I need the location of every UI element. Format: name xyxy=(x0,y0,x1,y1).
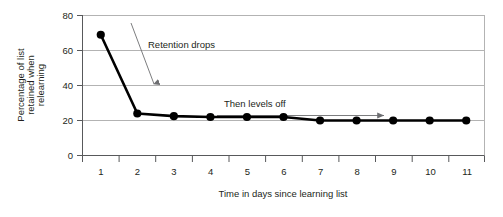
x-axis-tick-labels: 1 2 3 4 5 6 7 8 9 10 11 xyxy=(98,166,472,177)
data-point-day-10 xyxy=(426,116,434,124)
data-point-day-1 xyxy=(97,31,105,39)
data-point-day-2 xyxy=(133,109,141,117)
x-tick-label-4: 4 xyxy=(208,166,213,177)
annotation-retention-drops: Retention drops xyxy=(131,23,215,84)
x-tick-label-2: 2 xyxy=(135,166,140,177)
x-tick-label-9: 9 xyxy=(391,166,396,177)
y-axis-title: Percentage of list retained when relearn… xyxy=(15,48,46,122)
y-tick-label-60: 60 xyxy=(62,45,73,56)
annotation-then-levels-off: Then levels off xyxy=(217,98,384,116)
then-levels-off-label: Then levels off xyxy=(224,98,286,109)
x-tick-label-11: 11 xyxy=(462,166,472,177)
x-tick-label-7: 7 xyxy=(318,166,323,177)
y-tick-label-40: 40 xyxy=(62,80,73,91)
x-tick-label-10: 10 xyxy=(425,166,436,177)
data-point-day-11 xyxy=(462,116,470,124)
y-axis-ticks xyxy=(77,16,82,156)
data-point-day-9 xyxy=(389,116,397,124)
x-axis-title: Time in days since learning list xyxy=(218,188,347,199)
x-tick-label-5: 5 xyxy=(245,166,250,177)
x-tick-label-8: 8 xyxy=(355,166,360,177)
retention-drops-label: Retention drops xyxy=(148,39,215,50)
y-tick-label-80: 80 xyxy=(62,10,73,21)
data-point-day-5 xyxy=(243,113,251,121)
y-tick-label-0: 0 xyxy=(68,150,73,161)
data-point-day-4 xyxy=(206,113,214,121)
y-tick-label-20: 20 xyxy=(62,115,73,126)
data-point-day-6 xyxy=(279,113,287,121)
data-point-day-8 xyxy=(352,116,360,124)
x-tick-label-1: 1 xyxy=(98,166,103,177)
retention-drops-arrow-icon xyxy=(131,23,154,84)
x-tick-label-3: 3 xyxy=(171,166,176,177)
data-point-day-7 xyxy=(316,116,324,124)
x-axis-ticks xyxy=(83,156,485,163)
retention-curve-chart: 80 60 40 20 0 1 2 3 4 5 xyxy=(0,0,503,217)
chart-canvas: 80 60 40 20 0 1 2 3 4 5 xyxy=(0,0,503,217)
data-point-day-3 xyxy=(170,112,178,120)
y-axis-tick-labels: 80 60 40 20 0 xyxy=(62,10,73,161)
x-tick-label-6: 6 xyxy=(281,166,286,177)
y-axis-title-line-3: relearning xyxy=(35,64,46,106)
